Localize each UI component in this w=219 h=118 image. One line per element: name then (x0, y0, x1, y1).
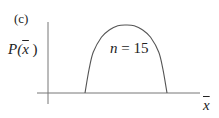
y-label-suffix: ) (29, 41, 38, 57)
y-axis-label: P(x ) (8, 42, 38, 57)
distribution-curve (85, 25, 167, 93)
x-label-var: x (203, 97, 210, 113)
sample-size-annotation: n = 15 (110, 41, 148, 56)
x-axis-label: x (203, 98, 210, 113)
chart-canvas (0, 0, 219, 118)
y-label-var: x (22, 41, 29, 57)
annotation-var: n (110, 40, 118, 56)
chart-figure: (c) P(x ) n = 15 x (0, 0, 219, 118)
annotation-value: = 15 (118, 40, 149, 56)
y-label-prefix: P( (8, 41, 22, 57)
panel-label: (c) (14, 12, 28, 25)
